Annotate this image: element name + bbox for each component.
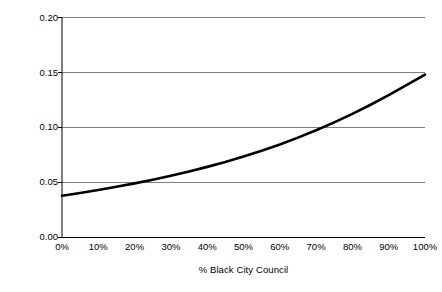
- data-line-series-1: [62, 75, 425, 196]
- x-tick-label: 80%: [343, 241, 362, 252]
- chart-figure: Predicting Takeover 0.20 0.15 0.10 0.05 …: [0, 0, 442, 292]
- x-tick-label: 100%: [413, 241, 437, 252]
- x-tick-label: 20%: [125, 241, 144, 252]
- x-tick-label: 10%: [89, 241, 108, 252]
- x-tick-label: 0%: [55, 241, 69, 252]
- x-tick-label: 70%: [307, 241, 326, 252]
- x-tick-label: 40%: [198, 241, 217, 252]
- x-tick-label: 50%: [234, 241, 253, 252]
- y-axis-ticks: [58, 18, 62, 238]
- x-tick-label: 90%: [379, 241, 398, 252]
- x-tick-label: 30%: [161, 241, 180, 252]
- x-tick-label: 60%: [270, 241, 289, 252]
- x-axis-title: % Black City Council: [62, 264, 425, 275]
